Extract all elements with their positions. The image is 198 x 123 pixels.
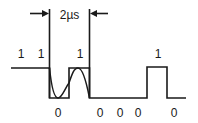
digital-signal-waveform-diagram: 2µs 1 1 1 1 0 0 0 0 0 — [0, 0, 198, 123]
bit-label-top: 1 — [155, 47, 162, 61]
bit-label-top: 1 — [38, 47, 45, 61]
bit-label-bottom: 0 — [117, 106, 124, 120]
bit-label-top: 1 — [18, 47, 25, 61]
square-wave-signal — [11, 67, 186, 98]
bit-label-top: 1 — [77, 47, 84, 61]
bit-label-bottom: 0 — [135, 106, 142, 120]
arrow-left-icon — [90, 10, 108, 17]
timing-label: 2µs — [60, 8, 80, 22]
bit-label-bottom: 0 — [97, 106, 104, 120]
bit-label-bottom: 0 — [55, 106, 62, 120]
bit-label-bottom: 0 — [171, 106, 178, 120]
arrow-right-icon — [30, 10, 49, 17]
